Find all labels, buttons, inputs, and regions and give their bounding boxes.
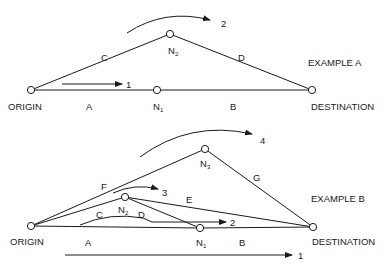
n1-label: N1 [153, 101, 164, 113]
node-destination [308, 86, 315, 93]
node-n1 [196, 224, 203, 231]
n1-label-sub: 1 [203, 243, 207, 249]
link-g [205, 149, 313, 227]
node-destination [309, 223, 316, 230]
destination-label: DESTINATION [312, 236, 375, 247]
example-b: ORIGIN DESTINATION N1 N2 N3 A B C D E F … [10, 130, 375, 261]
link-g-label: G [253, 172, 260, 183]
example-a: ORIGIN DESTINATION N1 N2 A B C D 1 2 EXA… [8, 16, 374, 113]
flow-2-label: 2 [230, 217, 235, 228]
n1-label-sub: 1 [160, 107, 164, 113]
node-n3 [201, 145, 208, 152]
link-a [31, 226, 200, 228]
n3-label: N3 [200, 158, 211, 170]
n2-label: N2 [168, 45, 179, 57]
example-a-title: EXAMPLE A [308, 57, 362, 68]
link-d-label: D [238, 52, 245, 63]
link-a-label: A [85, 237, 92, 248]
n2-label-sub: 2 [125, 210, 129, 216]
n2-label: N2 [118, 204, 129, 216]
origin-label: ORIGIN [8, 101, 42, 112]
link-b [200, 227, 313, 228]
origin-label: ORIGIN [10, 236, 44, 247]
flow-2-label: 2 [221, 18, 226, 29]
link-e-label: E [186, 194, 192, 205]
link-c-label: C [96, 209, 103, 220]
link-f-label: F [101, 181, 107, 192]
n1-label: N1 [196, 237, 207, 249]
n2-label-sub: 2 [175, 51, 179, 57]
flow-1-label: 1 [126, 79, 131, 90]
network-diagram: ORIGIN DESTINATION N1 N2 A B C D 1 2 EXA… [0, 0, 384, 267]
flow-1-label: 1 [298, 250, 303, 261]
flow-4-label: 4 [260, 135, 265, 146]
n3-label-sub: 3 [207, 164, 211, 170]
link-b-label: B [239, 237, 245, 248]
example-b-title: EXAMPLE B [311, 193, 365, 204]
link-c [31, 197, 125, 226]
link-a-label: A [86, 101, 93, 112]
link-d-label: D [138, 209, 145, 220]
node-n2 [121, 193, 128, 200]
node-origin [27, 222, 34, 229]
node-n2 [166, 30, 173, 37]
flow-3-label: 3 [162, 187, 167, 198]
flow-3-arrow [113, 187, 158, 193]
node-n1 [153, 86, 160, 93]
link-c-label: C [101, 52, 108, 63]
link-b-label: B [230, 101, 236, 112]
destination-label: DESTINATION [311, 101, 374, 112]
node-origin [27, 86, 34, 93]
